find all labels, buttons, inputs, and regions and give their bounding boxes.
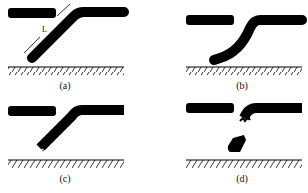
panel-d (186, 103, 302, 168)
bent-rod (214, 20, 302, 60)
broken-rod (244, 108, 302, 118)
caption-b: (b) (222, 80, 262, 91)
dimension-label-L: L (42, 25, 47, 34)
detached-fragment (228, 135, 246, 152)
ground-hatch (186, 160, 302, 168)
bent-rod (32, 12, 124, 58)
ground-hatch (186, 67, 302, 75)
figure-canvas: L (0, 0, 308, 193)
panel-b (186, 15, 302, 75)
left-bar (186, 15, 234, 25)
ground-hatch (8, 160, 124, 168)
ground-hatch (8, 67, 124, 75)
left-bar (8, 8, 56, 18)
caption-d: (d) (222, 173, 262, 184)
caption-a: (a) (45, 80, 85, 91)
panel-a: L (8, 4, 124, 75)
left-bar (8, 106, 56, 116)
left-bar (186, 103, 234, 113)
panel-c (8, 106, 124, 168)
dimension-line-top (57, 4, 70, 16)
caption-c: (c) (45, 173, 85, 184)
